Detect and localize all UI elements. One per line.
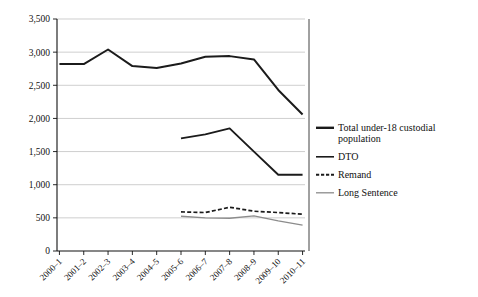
x-tick-label: 2010–11 bbox=[278, 256, 307, 285]
x-tick-label: 2004–5 bbox=[135, 256, 162, 283]
legend-label-2: Remand bbox=[338, 169, 371, 180]
y-tick-label: 3,500 bbox=[29, 14, 51, 24]
line-chart: 05001,0001,5002,0002,5003,0003,500 2000–… bbox=[0, 0, 478, 297]
x-tick-label: 2006–7 bbox=[184, 256, 211, 283]
series-line-0 bbox=[59, 49, 302, 114]
y-tick-label: 500 bbox=[36, 213, 51, 223]
y-axis-ticks-group: 05001,0001,5002,0002,5003,0003,500 bbox=[29, 14, 57, 256]
series-line-2 bbox=[181, 207, 303, 214]
y-tick-label: 3,000 bbox=[29, 48, 51, 58]
x-tick-label: 2003–4 bbox=[111, 256, 138, 283]
y-tick-label: 2,500 bbox=[29, 81, 51, 91]
x-axis-ticks-group: 2000–12001–22002–32003–42004–52005–62006… bbox=[38, 251, 307, 286]
x-tick-label: 2005–6 bbox=[159, 256, 186, 283]
x-tick-label: 2007–8 bbox=[208, 256, 235, 283]
series-group bbox=[59, 49, 302, 225]
x-tick-label: 2009–10 bbox=[253, 256, 283, 286]
chart-canvas: 05001,0001,5002,0002,5003,0003,500 2000–… bbox=[0, 0, 478, 297]
series-line-3 bbox=[181, 216, 303, 225]
x-tick-label: 2000–1 bbox=[38, 256, 64, 282]
y-tick-label: 1,500 bbox=[29, 147, 51, 157]
x-tick-label: 2001–2 bbox=[62, 256, 88, 282]
gridlines-group bbox=[57, 19, 305, 218]
legend-label-3: Long Sentence bbox=[338, 187, 398, 198]
x-tick-label: 2002–3 bbox=[86, 256, 113, 283]
legend: Total under-18 custodialpopulationDTORem… bbox=[316, 122, 436, 198]
legend-label-0-line2: population bbox=[338, 133, 381, 144]
y-tick-label: 0 bbox=[45, 246, 50, 256]
y-tick-label: 2,000 bbox=[29, 114, 51, 124]
y-tick-label: 1,000 bbox=[29, 180, 51, 190]
legend-label-0: Total under-18 custodial bbox=[338, 122, 436, 133]
legend-label-1: DTO bbox=[338, 151, 358, 162]
